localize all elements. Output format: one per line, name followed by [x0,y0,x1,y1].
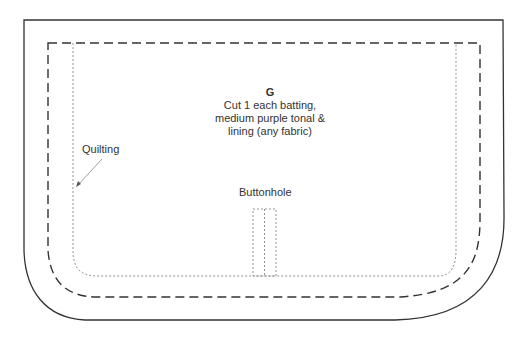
instruction-line-3: lining (any fabric) [190,125,350,138]
seam-line [48,43,480,297]
pattern-diagram [0,0,529,342]
buttonhole-label: Buttonhole [239,186,292,199]
quilting-label: Quilting [82,143,119,156]
cut-line [24,20,504,320]
piece-letter: G [190,86,350,99]
instruction-line-1: Cut 1 each batting, [190,99,350,112]
arrow-head-icon [76,181,81,187]
instruction-line-2: medium purple tonal & [190,112,350,125]
piece-label: G Cut 1 each batting, medium purple tona… [190,86,350,138]
quilting-pointer [78,159,102,185]
